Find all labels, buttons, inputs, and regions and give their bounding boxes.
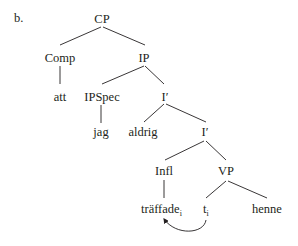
node-att: att [54,90,67,104]
edge-ibar1-aldrig [144,104,164,122]
syntax-tree: b. CP Comp IP att IPSpec I′ jag aldrig I… [0,0,298,246]
node-vp: VP [218,164,234,178]
trace-index: i [206,209,209,218]
node-henne: henne [252,202,282,216]
edge-vp-henne [228,181,267,198]
edge-ip-ipspec [102,66,144,84]
traffade-word: träffade [141,202,180,216]
movement-arrow [164,219,206,231]
node-infl: Infl [155,164,174,178]
edge-cp-ip [103,27,145,45]
example-label: b. [14,11,23,25]
edge-vp-trace [206,181,226,198]
node-ip: IP [138,51,149,65]
node-cp: CP [94,12,109,26]
node-trace: ti [203,202,209,218]
edge-ibar2-infl [165,141,204,160]
node-comp: Comp [45,51,76,65]
edge-cp-comp [60,27,101,45]
traffade-index: i [180,209,183,218]
node-ipspec: IPSpec [84,90,120,104]
node-ibar-2: I′ [202,125,209,139]
edge-ibar1-ibar2 [166,104,206,122]
node-traffade: träffadei [141,202,183,218]
edge-ip-ibar1 [145,66,164,84]
node-ibar-1: I′ [162,90,169,104]
edge-ibar2-vp [206,141,226,160]
node-jag: jag [92,125,109,139]
node-aldrig: aldrig [128,125,158,139]
